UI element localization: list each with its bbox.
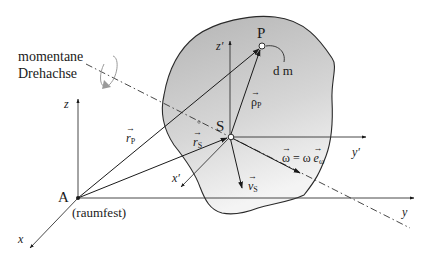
fixed-note-label: (raumfest)	[72, 206, 126, 219]
point-P-marker	[259, 43, 265, 49]
rho-P-subscript: P	[257, 101, 261, 110]
axis-y-prime-label: y′	[352, 146, 360, 158]
vector-r-S-label: rS	[193, 136, 202, 150]
omega-equation-label: ω = ω eω	[282, 152, 324, 166]
rho-P-symbol: ρ	[251, 96, 257, 108]
point-P-label: P	[257, 26, 265, 41]
vector-r-P-label: rP	[126, 132, 135, 146]
v-S-subscript: S	[253, 185, 257, 194]
point-S-label: S	[216, 119, 224, 134]
omega-equals: = ω	[290, 151, 314, 165]
rotation-direction-icon	[101, 56, 118, 87]
r-S-subscript: S	[198, 141, 202, 150]
omega-symbol: ω	[282, 152, 290, 164]
axis-x-prime-label: x′	[172, 172, 180, 184]
r-P-subscript: P	[131, 137, 135, 146]
unit-vector-symbol: e	[314, 152, 319, 164]
unit-vector-subscript: ω	[319, 157, 324, 166]
rotation-axis-label-line1: momentane	[18, 50, 83, 64]
r-S-symbol: r	[193, 136, 198, 148]
axis-y-label: y	[402, 206, 407, 218]
point-A-label: A	[58, 190, 69, 205]
point-S-marker	[228, 134, 234, 140]
x-axis	[30, 198, 78, 248]
r-P-symbol: r	[126, 132, 131, 144]
axis-z-label: z	[64, 98, 69, 110]
point-A-marker	[76, 196, 80, 200]
rigid-body-kinematics-diagram	[0, 0, 425, 265]
vector-rho-P-label: ρP	[251, 96, 261, 110]
vector-v-S-label: vS	[248, 180, 258, 194]
mass-element-text: d m	[273, 63, 293, 78]
axis-z-prime-label: z′	[216, 40, 223, 52]
v-S-symbol: v	[248, 180, 253, 192]
axis-x-label: x	[18, 233, 23, 245]
mass-element-label: d m	[273, 64, 293, 77]
rotation-axis-label-line2: Drehachse	[18, 67, 77, 81]
